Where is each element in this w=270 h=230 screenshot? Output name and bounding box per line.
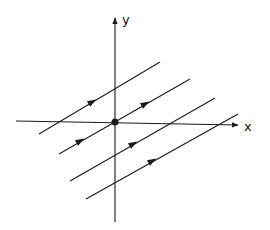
x-axis (16, 121, 238, 125)
trajectories (39, 62, 238, 199)
direction-arrows (75, 97, 158, 166)
axes (16, 18, 238, 222)
origin-fixed-point (112, 119, 119, 126)
x-axis-label: x (244, 119, 252, 134)
trajectory-line (86, 114, 238, 199)
direction-arrow-icon (87, 97, 98, 107)
y-axis-label: y (122, 12, 130, 27)
phase-portrait-diagram: x y (0, 0, 270, 230)
